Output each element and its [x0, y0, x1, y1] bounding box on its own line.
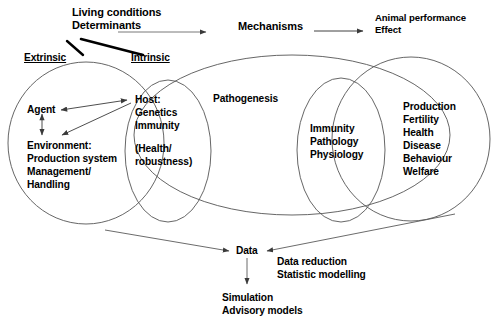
animal-performance-label: Animal performance	[375, 12, 466, 25]
host-label: Host:	[135, 94, 161, 107]
handling-label: Handling	[27, 179, 70, 192]
statistic-modelling-label: Statistic modelling	[277, 269, 366, 282]
arrow-host-to-environment	[62, 103, 131, 135]
outcome-item: Fertility	[403, 114, 439, 127]
outcome-item: Welfare	[403, 166, 439, 179]
arrow-agent-host-bidirectional	[61, 100, 127, 110]
immunity-mechanism-label: Immunity	[310, 123, 354, 136]
pathology-label: Pathology	[310, 136, 358, 149]
genetics-label: Genetics	[135, 107, 177, 120]
outcome-item: Production	[403, 101, 456, 114]
diagram-canvas: Living conditions Determinants Mechanism…	[0, 0, 494, 326]
simulation-label: Simulation	[222, 292, 273, 305]
agent-label: Agent	[27, 104, 55, 117]
arrow-right-to-data	[267, 214, 455, 251]
effect-label: Effect	[375, 24, 401, 37]
management-label: Management/	[27, 166, 91, 179]
connector-determinants-to-extrinsic	[67, 41, 83, 55]
intrinsic-label: Intrinsic	[131, 52, 170, 65]
physiology-label: Physiology	[310, 149, 363, 162]
data-reduction-label: Data reduction	[277, 256, 347, 269]
outcome-item: Behaviour	[403, 153, 452, 166]
production-system-label: Production system	[27, 153, 117, 166]
robustness-label: robustness)	[135, 156, 192, 169]
determinants-label: Determinants	[72, 19, 141, 32]
extrinsic-label: Extrinsic	[24, 52, 66, 65]
immunity-host-label: Immunity	[135, 120, 179, 133]
advisory-models-label: Advisory models	[222, 305, 303, 318]
outcome-item: Disease	[403, 140, 441, 153]
pathogenesis-label: Pathogenesis	[213, 93, 278, 106]
mechanisms-label: Mechanisms	[238, 20, 303, 33]
data-label: Data	[236, 245, 258, 258]
health-label: (Health/	[135, 143, 172, 156]
outcome-item: Health	[403, 127, 434, 140]
living-conditions-label: Living conditions	[72, 6, 161, 19]
environment-label: Environment:	[27, 140, 91, 153]
arrow-left-to-data	[105, 230, 229, 251]
